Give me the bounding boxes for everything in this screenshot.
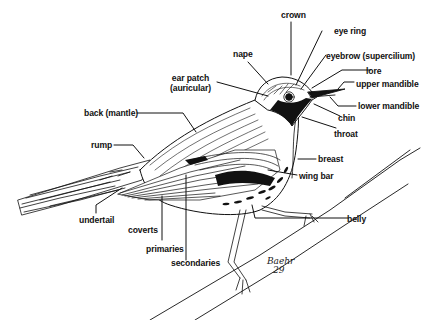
legs — [228, 206, 318, 294]
label-throat: throat — [334, 129, 358, 139]
label-belly: belly — [347, 214, 366, 224]
label-ear-patch-line2: (auricular) — [170, 83, 211, 93]
label-eyebrow: eyebrow (supercilium) — [326, 51, 415, 61]
label-ear-patch-line1: ear patch — [170, 73, 211, 83]
label-back: back (mantle) — [84, 108, 138, 118]
tail — [18, 160, 150, 215]
signature-year: 29 — [267, 266, 294, 275]
eye — [286, 94, 293, 101]
label-coverts: coverts — [128, 225, 158, 235]
bird-anatomy-diagram: crown eye ring nape eyebrow (supercilium… — [0, 0, 421, 320]
beak — [308, 89, 345, 98]
label-lower-mandible: lower mandible — [358, 101, 419, 111]
label-crown: crown — [281, 10, 306, 20]
artist-signature: Baehr 29 — [267, 257, 294, 275]
label-secondaries: secondaries — [171, 258, 220, 268]
label-wing-bar: wing bar — [299, 171, 334, 181]
label-ear-patch: ear patch (auricular) — [170, 73, 211, 93]
label-rump: rump — [91, 140, 112, 150]
label-undertail: undertail — [79, 215, 114, 225]
label-lore: lore — [366, 66, 381, 76]
label-chin: chin — [338, 113, 355, 123]
label-nape: nape — [233, 49, 253, 59]
label-breast: breast — [318, 154, 343, 164]
label-primaries: primaries — [146, 244, 184, 254]
label-eye-ring: eye ring — [334, 26, 366, 36]
label-upper-mandible: upper mandible — [356, 79, 419, 89]
bird-illustration — [0, 0, 421, 320]
